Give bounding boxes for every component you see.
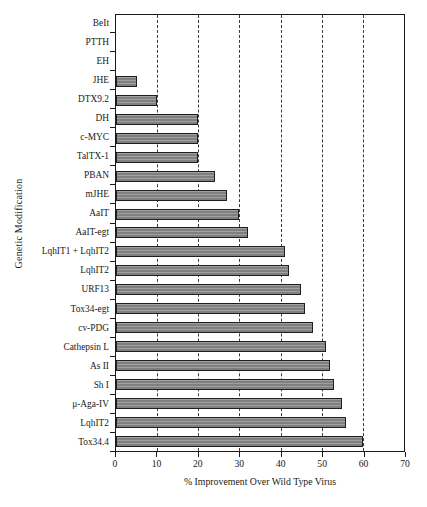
category-label: AaIT: [14, 204, 112, 223]
bar: [116, 379, 334, 390]
x-tick: [239, 452, 240, 457]
x-tick: [156, 452, 157, 457]
x-tick-label: 60: [359, 458, 369, 469]
bar-row: [116, 242, 404, 261]
bar: [116, 284, 301, 295]
bar-row: [116, 318, 404, 337]
category-label: LqhIT1 + LqhIT2: [14, 243, 112, 262]
bar: [116, 227, 248, 238]
plot-area: [115, 14, 405, 452]
bar-row: [116, 394, 404, 413]
bar: [116, 152, 198, 163]
x-tick-label: 40: [276, 458, 286, 469]
category-label: cv-PDG: [14, 319, 112, 338]
bar-row: [116, 413, 404, 432]
bar: [116, 398, 342, 409]
category-label: μ-Aga-IV: [14, 395, 112, 414]
bar: [116, 341, 326, 352]
category-label: Cathepsin L: [14, 338, 112, 357]
x-tick: [364, 452, 365, 457]
bar-row: [116, 432, 404, 451]
bar-row: [116, 72, 404, 91]
bar-series: [116, 15, 404, 451]
bar: [116, 95, 157, 106]
bar-chart: Genetic Modification BeItPTTHEHJHEDTX9.2…: [0, 0, 427, 507]
bar-row: [116, 186, 404, 205]
x-axis-tick-labels: 010203040506070: [115, 458, 405, 472]
bar: [116, 114, 198, 125]
bar-row: [116, 205, 404, 224]
category-label: EH: [14, 52, 112, 71]
bar-row: [116, 129, 404, 148]
category-label: Tox34.4: [14, 433, 112, 452]
bar-row: [116, 223, 404, 242]
category-label: c-MYC: [14, 128, 112, 147]
bar: [116, 303, 305, 314]
x-tick: [322, 452, 323, 457]
category-label: Sh I: [14, 376, 112, 395]
bar-row: [116, 148, 404, 167]
category-label: URF13: [14, 281, 112, 300]
category-label: TalTX-1: [14, 147, 112, 166]
bar: [116, 265, 289, 276]
bar: [116, 76, 137, 87]
x-tick: [405, 452, 406, 457]
x-tick: [198, 452, 199, 457]
category-label: JHE: [14, 71, 112, 90]
bar: [116, 171, 215, 182]
category-label: Tox34-egt: [14, 300, 112, 319]
bar-row: [116, 110, 404, 129]
bar-row: [116, 299, 404, 318]
category-label: LqhIT2: [14, 414, 112, 433]
bar: [116, 417, 346, 428]
bar-row: [116, 375, 404, 394]
category-label: BeIt: [14, 14, 112, 33]
bar: [116, 436, 363, 447]
bar: [116, 133, 198, 144]
category-label: As II: [14, 357, 112, 376]
bar: [116, 322, 313, 333]
bar: [116, 360, 330, 371]
x-axis-title: % Improvement Over Wild Type Virus: [115, 476, 405, 487]
x-tick: [281, 452, 282, 457]
category-label: DTX9.2: [14, 90, 112, 109]
x-tick-label: 30: [234, 458, 244, 469]
x-tick-label: 20: [193, 458, 203, 469]
bar-row: [116, 167, 404, 186]
bar-row: [116, 356, 404, 375]
category-label-column: BeItPTTHEHJHEDTX9.2DHc-MYCTalTX-1PBANmJH…: [14, 14, 112, 452]
bar-row: [116, 91, 404, 110]
bar-row: [116, 261, 404, 280]
bar: [116, 209, 239, 220]
x-tick-label: 70: [400, 458, 410, 469]
bar-row: [116, 280, 404, 299]
bar: [116, 190, 227, 201]
category-label: PBAN: [14, 166, 112, 185]
bar: [116, 246, 285, 257]
bar-row: [116, 53, 404, 72]
category-label: DH: [14, 109, 112, 128]
bar-row: [116, 34, 404, 53]
x-tick: [115, 452, 116, 457]
category-label: LqhIT2: [14, 262, 112, 281]
category-label: mJHE: [14, 185, 112, 204]
x-tick-label: 50: [317, 458, 327, 469]
category-label: PTTH: [14, 33, 112, 52]
bar-row: [116, 337, 404, 356]
category-label: AaIT-egt: [14, 224, 112, 243]
x-tick-label: 0: [113, 458, 118, 469]
x-tick-label: 10: [152, 458, 162, 469]
bar-row: [116, 15, 404, 34]
